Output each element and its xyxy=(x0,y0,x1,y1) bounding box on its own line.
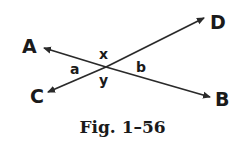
line-ab-2 xyxy=(106,67,210,97)
angle-label-x: x xyxy=(99,46,108,62)
point-label-a: A xyxy=(22,35,37,57)
point-label-c: C xyxy=(30,85,44,107)
line-cd-2 xyxy=(106,18,204,67)
figure-caption: Fig. 1–56 xyxy=(0,117,245,137)
point-label-d: D xyxy=(210,11,226,33)
angle-label-y: y xyxy=(99,72,108,88)
point-label-b: B xyxy=(215,88,229,110)
angle-label-a: a xyxy=(70,61,79,77)
angle-label-b: b xyxy=(136,59,146,75)
